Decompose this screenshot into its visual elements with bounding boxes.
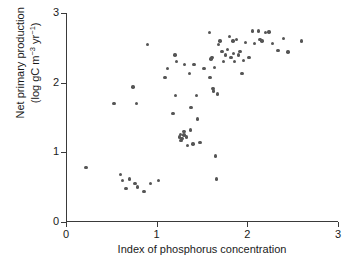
data-point — [208, 76, 211, 79]
data-point — [174, 94, 177, 97]
data-point — [222, 60, 225, 63]
data-point — [128, 177, 131, 180]
data-point — [232, 52, 235, 55]
data-point — [198, 141, 201, 144]
data-point — [224, 53, 227, 56]
data-point — [244, 41, 247, 44]
y-axis-title-line-1: Net primary production — [14, 7, 26, 118]
data-point — [213, 66, 216, 69]
data-point — [192, 63, 195, 66]
x-axis-line — [66, 221, 338, 222]
data-point — [242, 59, 245, 62]
data-point — [276, 49, 279, 52]
data-point — [135, 102, 138, 105]
data-point — [258, 38, 261, 41]
data-point — [247, 56, 250, 59]
scatter-plot-figure: 0123 0123 Net primary production (log gC… — [0, 0, 360, 267]
y-axis-line — [66, 13, 67, 222]
data-point — [149, 182, 152, 185]
y-tick-label: 0 — [39, 216, 59, 227]
data-point — [238, 50, 241, 53]
data-point — [121, 179, 124, 182]
data-point — [267, 30, 270, 33]
y-tick-mark — [61, 83, 66, 84]
data-point — [210, 56, 213, 59]
data-point — [166, 67, 169, 70]
data-point — [202, 67, 205, 70]
data-point — [171, 112, 174, 115]
data-point — [180, 137, 183, 140]
data-point — [251, 29, 254, 32]
y-tick-mark — [61, 152, 66, 153]
data-point — [215, 177, 218, 180]
data-point — [233, 60, 236, 63]
data-point — [131, 85, 134, 88]
plot-area: 0123 0123 — [66, 13, 338, 222]
y-tick-mark — [61, 13, 66, 14]
x-tick-label: 2 — [237, 229, 257, 240]
x-tick-mark — [157, 222, 158, 227]
data-point — [235, 38, 238, 41]
data-point — [228, 35, 231, 38]
data-point — [136, 185, 139, 188]
data-point — [229, 56, 232, 59]
data-point — [142, 190, 145, 193]
data-point — [124, 187, 127, 190]
data-point — [119, 173, 122, 176]
data-point — [286, 50, 289, 53]
y-axis-title-line-2: (log gC m−3 yr−1) — [28, 0, 43, 153]
data-point — [173, 53, 176, 56]
data-point — [240, 72, 243, 75]
data-point — [189, 128, 192, 131]
data-point — [218, 39, 221, 42]
data-point — [208, 31, 211, 34]
data-point — [220, 50, 223, 53]
x-tick-mark — [338, 222, 339, 227]
data-point — [146, 43, 149, 46]
x-axis-title: Index of phosphorus concentration — [66, 243, 338, 255]
x-tick-mark — [247, 222, 248, 227]
data-point — [112, 102, 115, 105]
data-point — [195, 94, 198, 97]
data-point — [237, 53, 240, 56]
x-tick-label: 1 — [147, 229, 167, 240]
data-point — [253, 42, 256, 45]
data-point — [300, 39, 303, 42]
x-tick-label: 3 — [328, 229, 348, 240]
data-point — [212, 89, 215, 92]
data-point — [183, 63, 186, 66]
data-point — [175, 60, 178, 63]
data-point — [157, 179, 160, 182]
y-axis-title: Net primary production (log gC m−3 yr−1) — [13, 0, 43, 153]
data-point — [216, 92, 219, 95]
data-point — [282, 37, 285, 40]
x-tick-label: 0 — [56, 229, 76, 240]
data-point — [226, 48, 229, 51]
data-point — [191, 142, 194, 145]
data-point — [271, 42, 274, 45]
data-point — [163, 76, 166, 79]
data-point — [196, 117, 199, 120]
data-point — [188, 72, 191, 75]
data-point — [231, 39, 234, 42]
data-point — [84, 166, 87, 169]
data-point — [214, 154, 217, 157]
data-point — [257, 29, 260, 32]
data-point — [189, 106, 192, 109]
data-point — [186, 144, 189, 147]
data-point — [217, 43, 220, 46]
x-tick-mark — [66, 222, 67, 227]
